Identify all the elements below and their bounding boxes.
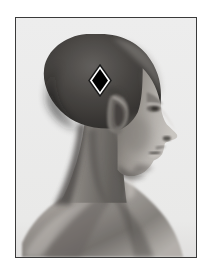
photograph-plate bbox=[16, 18, 196, 257]
figure-container bbox=[0, 0, 214, 274]
profile-photograph bbox=[16, 18, 196, 257]
figure-frame bbox=[15, 17, 197, 258]
